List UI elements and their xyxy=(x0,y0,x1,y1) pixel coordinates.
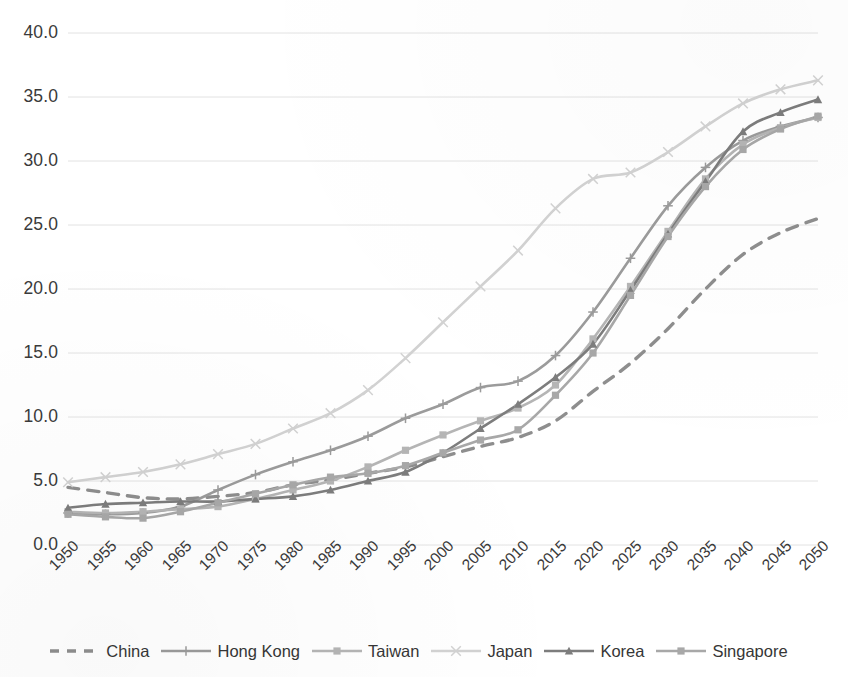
series-marker-singapore xyxy=(364,470,371,477)
japan-swatch xyxy=(430,644,482,658)
series-marker-taiwan xyxy=(139,508,146,515)
legend-label: Hong Kong xyxy=(217,643,300,660)
series-marker-japan xyxy=(401,353,411,363)
series-line-china xyxy=(68,219,818,499)
series-marker-hong-kong xyxy=(401,413,411,423)
y-axis-tick-label: 0.0 xyxy=(0,536,58,554)
series-marker-japan xyxy=(701,122,711,132)
series-marker-hong-kong xyxy=(363,431,373,441)
legend-item-taiwan[interactable]: Taiwan xyxy=(311,643,419,660)
series-marker-taiwan xyxy=(364,463,371,470)
legend-label: Japan xyxy=(487,643,532,660)
series-marker-singapore xyxy=(589,349,596,356)
series-marker-hong-kong xyxy=(513,376,523,386)
legend-label: China xyxy=(106,643,149,660)
series-marker-japan xyxy=(513,246,523,256)
series-marker-singapore xyxy=(552,392,559,399)
series-marker-singapore xyxy=(177,508,184,515)
y-axis-tick-label: 35.0 xyxy=(0,88,58,106)
series-marker-hong-kong xyxy=(251,470,261,480)
series-marker-singapore xyxy=(289,481,296,488)
chart-legend: ChinaHong KongTaiwanJapanKoreaSingapore xyxy=(0,636,848,666)
series-marker-japan xyxy=(476,282,486,292)
series-marker-hong-kong xyxy=(438,399,448,409)
china-swatch xyxy=(49,644,101,658)
y-axis-tick-label: 15.0 xyxy=(0,344,58,362)
y-axis-tick-label: 30.0 xyxy=(0,152,58,170)
legend-item-hong-kong[interactable]: Hong Kong xyxy=(160,643,300,660)
legend-swatch-marker xyxy=(333,647,340,654)
series-marker-hong-kong xyxy=(288,457,298,467)
legend-item-korea[interactable]: Korea xyxy=(543,643,644,660)
legend-swatch-marker xyxy=(678,647,685,654)
series-markers xyxy=(63,76,823,522)
legend-item-japan[interactable]: Japan xyxy=(430,643,532,660)
series-marker-japan xyxy=(438,317,448,327)
legend-swatch-marker xyxy=(182,646,192,656)
series-marker-singapore xyxy=(664,233,671,240)
series-marker-singapore xyxy=(477,436,484,443)
series-marker-taiwan xyxy=(402,447,409,454)
series-marker-singapore xyxy=(402,462,409,469)
series-marker-singapore xyxy=(64,511,71,518)
series-line-japan xyxy=(68,80,818,482)
y-axis-tick-label: 5.0 xyxy=(0,472,58,490)
series-marker-singapore xyxy=(102,513,109,520)
hong-kong-swatch xyxy=(160,644,212,658)
series-marker-singapore xyxy=(777,125,784,132)
line-chart: 0.05.010.015.020.025.030.035.040.0 19501… xyxy=(0,0,848,677)
plot-area xyxy=(0,0,848,677)
legend-item-singapore[interactable]: Singapore xyxy=(655,643,787,660)
series-marker-singapore xyxy=(627,292,634,299)
series-marker-singapore xyxy=(139,515,146,522)
taiwan-swatch xyxy=(311,644,363,658)
series-marker-singapore xyxy=(252,490,259,497)
series-marker-hong-kong xyxy=(326,445,336,455)
series-marker-singapore xyxy=(327,474,334,481)
y-axis-tick-label: 20.0 xyxy=(0,280,58,298)
series-marker-hong-kong xyxy=(476,383,486,393)
y-axis-tick-label: 10.0 xyxy=(0,408,58,426)
series-marker-hong-kong xyxy=(213,485,223,495)
series-marker-singapore xyxy=(814,113,821,120)
series-marker-singapore xyxy=(439,449,446,456)
series-marker-japan xyxy=(738,99,748,109)
series-marker-japan xyxy=(551,204,561,214)
series-marker-singapore xyxy=(214,499,221,506)
y-axis-tick-label: 40.0 xyxy=(0,24,58,42)
legend-item-china[interactable]: China xyxy=(49,643,149,660)
series-marker-taiwan xyxy=(552,381,559,388)
legend-label: Singapore xyxy=(712,643,787,660)
korea-swatch xyxy=(543,644,595,658)
singapore-swatch xyxy=(655,644,707,658)
series-marker-japan xyxy=(363,385,373,395)
series-marker-taiwan xyxy=(439,431,446,438)
series-marker-japan xyxy=(663,147,673,157)
legend-label: Korea xyxy=(600,643,644,660)
series-marker-singapore xyxy=(514,426,521,433)
series-marker-singapore xyxy=(739,146,746,153)
series-marker-taiwan xyxy=(477,417,484,424)
y-axis-tick-label: 25.0 xyxy=(0,216,58,234)
legend-label: Taiwan xyxy=(368,643,419,660)
series-marker-singapore xyxy=(702,183,709,190)
